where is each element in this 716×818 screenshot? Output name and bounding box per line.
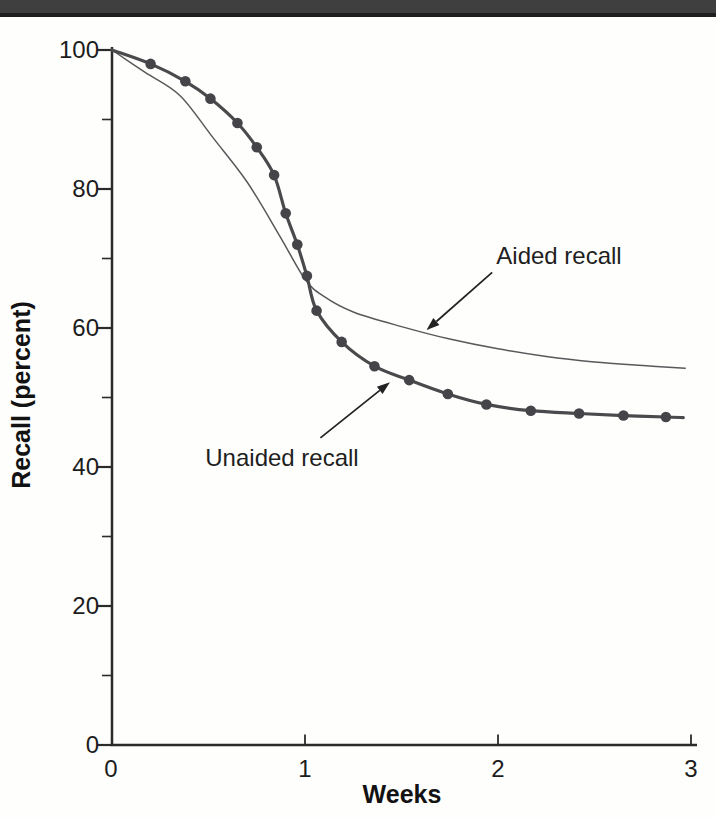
data-point-dot bbox=[443, 389, 454, 400]
data-point-dot bbox=[269, 170, 280, 181]
annotation-arrow-line bbox=[436, 272, 492, 321]
data-point-dot bbox=[526, 405, 537, 416]
y-tick-label-40: 40 bbox=[72, 453, 99, 480]
data-point-dot bbox=[618, 410, 629, 421]
x-tick-label-3: 3 bbox=[684, 755, 697, 782]
annotation-arrow-line bbox=[320, 390, 379, 438]
y-tick-label-0: 0 bbox=[86, 731, 99, 758]
x-axis-title: Weeks bbox=[363, 780, 442, 808]
data-point-dot bbox=[369, 361, 380, 372]
data-point-dot bbox=[574, 408, 585, 419]
data-point-dot bbox=[336, 337, 347, 348]
data-point-dot bbox=[251, 142, 262, 153]
data-point-dot bbox=[205, 93, 216, 104]
y-tick-label-20: 20 bbox=[72, 592, 99, 619]
data-point-dot bbox=[232, 118, 243, 129]
y-tick-label-60: 60 bbox=[72, 314, 99, 341]
y-axis-title: Recall (percent) bbox=[7, 301, 35, 489]
data-point-dot bbox=[180, 76, 191, 87]
data-point-dot bbox=[311, 305, 322, 316]
data-point-dot bbox=[145, 59, 156, 70]
aided-recall-curve bbox=[112, 50, 685, 368]
x-tick-label-1: 1 bbox=[298, 755, 311, 782]
y-tick-label-100: 100 bbox=[59, 36, 99, 63]
x-tick-label-2: 2 bbox=[491, 755, 504, 782]
y-tick-label-80: 80 bbox=[72, 175, 99, 202]
data-point-dot bbox=[404, 375, 415, 386]
aided-recall-label: Aided recall bbox=[496, 242, 621, 269]
plot-layer bbox=[98, 47, 698, 746]
data-point-dot bbox=[481, 399, 492, 410]
data-point-dot bbox=[280, 208, 291, 219]
data-point-dot bbox=[292, 239, 303, 250]
data-point-dot bbox=[302, 271, 313, 282]
unaided-recall-label: Unaided recall bbox=[205, 444, 358, 471]
x-tick-label-0: 0 bbox=[104, 755, 117, 782]
recall-line-chart: 100 80 60 40 20 0 0 1 2 3 Weeks Recall (… bbox=[0, 0, 716, 818]
data-point-dot bbox=[661, 412, 672, 423]
